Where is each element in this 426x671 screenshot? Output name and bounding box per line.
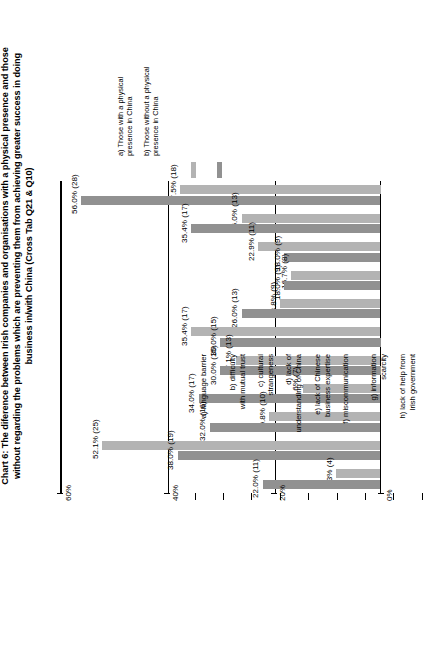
value-tick-60 xyxy=(57,493,63,494)
legend-label-1: b) Those without a physical presence in … xyxy=(142,38,166,156)
bar-b-3 xyxy=(284,281,380,290)
bar-a-5 xyxy=(191,327,380,336)
category-tick-4 xyxy=(308,493,309,500)
value-axis-label-0: 0% xyxy=(385,489,394,501)
category-label-3: d) lack of understanding of China xyxy=(284,354,303,504)
bar-label-b-9: 38.0% (19) xyxy=(166,430,175,470)
category-tick-1 xyxy=(223,493,224,500)
bar-b-4 xyxy=(242,309,381,318)
legend-label-0: a) Those with a physical presence in Chi… xyxy=(116,38,140,156)
category-label-1: b) difficulty with mutual trust xyxy=(228,354,247,504)
category-tick-5 xyxy=(337,493,338,500)
category-tick-8 xyxy=(422,493,423,500)
category-tick-6 xyxy=(365,493,366,500)
bar-a-0 xyxy=(180,185,380,194)
bar-label-b-1: 35.4% (17) xyxy=(180,203,189,243)
bar-b-2 xyxy=(284,253,380,262)
value-axis-label-60: 60% xyxy=(64,485,73,501)
category-label-5: f) miscommunication xyxy=(341,354,351,504)
bar-a-1 xyxy=(242,214,381,223)
chart-title: Chart 6: The diference between Irish com… xyxy=(0,46,57,486)
category-tick-0 xyxy=(195,493,196,500)
legend-entry-0: a) Those with a physical presence in Chi… xyxy=(186,18,210,178)
value-tick-20 xyxy=(271,493,277,494)
legend-swatch-0 xyxy=(191,162,196,178)
category-label-2: c) cultural strangeness xyxy=(256,354,275,504)
bar-a-4 xyxy=(280,299,380,308)
bar-label-b-7: 34.0% (17) xyxy=(187,373,196,413)
gridline-60 xyxy=(61,181,62,493)
category-label-0: a) language barrier xyxy=(199,354,209,504)
bar-a-3 xyxy=(291,271,380,280)
value-axis-label-40: 40% xyxy=(171,485,180,501)
value-axis-label-20: 20% xyxy=(278,485,287,501)
chart-container: Chart 6: The diference between Irish com… xyxy=(0,0,426,671)
bar-b-5 xyxy=(220,338,380,347)
bar-b-1 xyxy=(191,224,380,233)
bar-label-a-9: 52.1% (25) xyxy=(91,420,100,460)
category-label-6: g) information scarcity xyxy=(369,354,388,504)
category-label-4: e) lack of Chinese business expertise xyxy=(313,354,332,504)
bar-label-a-5: 35.4% (17) xyxy=(180,306,189,346)
value-tick-0 xyxy=(378,493,384,494)
bar-label-a-2: 22.9% (11) xyxy=(247,222,256,261)
category-tick-2 xyxy=(251,493,252,500)
legend-entry-1: b) Those without a physical presence in … xyxy=(212,18,236,178)
bar-label-b-0: 56.0% (28) xyxy=(70,175,79,215)
category-label-7: h) lack of help from Irish government xyxy=(398,354,417,504)
value-tick-40 xyxy=(164,493,170,494)
chart-legend: a) Those with a physical presence in Chi… xyxy=(186,18,236,178)
legend-swatch-1 xyxy=(217,162,222,178)
bar-label-b-6: 30.0% (15) xyxy=(209,345,218,385)
bar-label-b-4: 26.0% (13) xyxy=(230,288,239,328)
